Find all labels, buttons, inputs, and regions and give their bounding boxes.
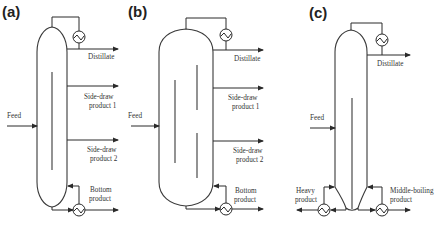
distillation-column-diagram: (a) Distillate Side-draw product 1 Side-… — [0, 0, 436, 225]
side-draw-2-label-line1: Side-draw — [233, 147, 263, 155]
panel-b-label: (b) — [128, 3, 147, 20]
panel-c: (c) Distillate Feed Heavy product — [295, 4, 434, 216]
bottom-label-line2: product — [89, 195, 111, 203]
heavy-label-line1: Heavy — [296, 187, 315, 195]
side-draw-2-label-line2: product 2 — [236, 156, 264, 164]
panel-b: (b) Distillate Side-draw product 1 Side-… — [128, 3, 264, 215]
feed-label: Feed — [128, 112, 142, 120]
distillate-label: Distillate — [88, 53, 114, 61]
side-draw-1-label-line2: product 1 — [232, 103, 260, 111]
side-draw-2-label-line2: product 2 — [90, 155, 118, 163]
reboiler-middle-icon — [376, 204, 388, 216]
bottom-label-line1: Bottom — [90, 186, 112, 194]
column-c-shell — [335, 30, 367, 210]
bottom-label-line2: product — [234, 196, 256, 204]
bottom-label-line1: Bottom — [235, 187, 257, 195]
middle-label-line1: Middle-boiling — [390, 187, 434, 195]
distillate-label: Distillate — [377, 60, 403, 68]
heavy-label-line2: product — [295, 196, 317, 204]
distillate-label: Distillate — [234, 55, 260, 63]
reboiler-icon — [73, 204, 85, 216]
side-draw-1-label-line2: product 1 — [89, 102, 117, 110]
feed-label: Feed — [310, 114, 324, 122]
side-draw-2-label-line1: Side-draw — [87, 146, 117, 154]
panel-a: (a) Distillate Side-draw product 1 Side-… — [2, 3, 118, 216]
middle-label-line2: product — [390, 196, 412, 204]
condenser-icon — [73, 31, 85, 43]
side-draw-1-label-line1: Side-draw — [84, 93, 114, 101]
column-b-shell — [159, 29, 213, 206]
panel-a-label: (a) — [2, 3, 20, 20]
condenser-icon — [376, 34, 388, 46]
column-a-overhead-line — [52, 17, 79, 31]
side-draw-1-label-line1: Side-draw — [228, 94, 258, 102]
feed-label: Feed — [7, 112, 21, 120]
reboiler-icon — [220, 203, 232, 215]
condenser-icon — [220, 29, 232, 41]
reboiler-heavy-icon — [318, 204, 330, 216]
panel-c-label: (c) — [309, 4, 327, 21]
